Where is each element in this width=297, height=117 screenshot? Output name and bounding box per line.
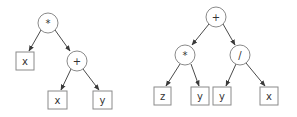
edge-divide-to-y [226,64,236,86]
node-times-root: * [38,13,58,33]
node-label: * [183,50,188,61]
node-plus: + [67,51,87,71]
edge-times-to-z [166,64,180,86]
node-label: * [46,18,51,29]
edge-plus-to-divide [223,24,235,45]
node-divide: / [230,45,250,65]
edge-plus-to-y [83,69,99,90]
node-label: + [73,56,81,67]
node-label: x [266,91,272,102]
node-label: y [219,91,225,102]
edge-plus-to-times [192,24,209,45]
node-label: x [55,95,61,106]
node-leaf-z: z [154,87,171,105]
node-label: + [212,12,220,23]
node-label: z [160,91,165,102]
node-leaf-y: y [213,87,231,105]
edge-plus-to-x [61,69,71,90]
node-leaf-x: x [48,91,67,109]
node-label: x [22,56,28,67]
node-leaf-y: y [93,91,112,109]
edge-times-to-y [191,64,199,86]
tree-left: * x + x y [16,13,112,109]
node-label: y [197,91,203,102]
edge-times-to-x [29,30,41,51]
expression-tree-diagram: * x + x y + [0,0,297,117]
node-leaf-x: x [260,87,278,105]
node-leaf-x: x [16,52,34,70]
node-plus-root: + [206,7,226,27]
edge-divide-to-x [246,63,265,86]
tree-right: + * / z y y x [154,7,278,105]
node-times: * [175,45,195,65]
node-leaf-y: y [191,87,209,105]
edge-times-to-plus [55,30,70,51]
node-label: y [100,95,106,106]
